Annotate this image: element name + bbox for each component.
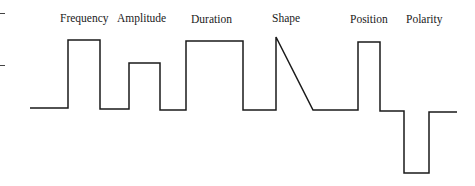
label-amplitude: Amplitude: [117, 12, 166, 24]
label-polarity: Polarity: [406, 13, 442, 25]
label-frequency: Frequency: [60, 12, 109, 24]
label-position: Position: [350, 13, 388, 25]
label-duration: Duration: [191, 13, 232, 25]
signal-waveform: [30, 37, 457, 173]
label-shape: Shape: [272, 12, 300, 24]
waveform-diagram: [0, 0, 475, 186]
